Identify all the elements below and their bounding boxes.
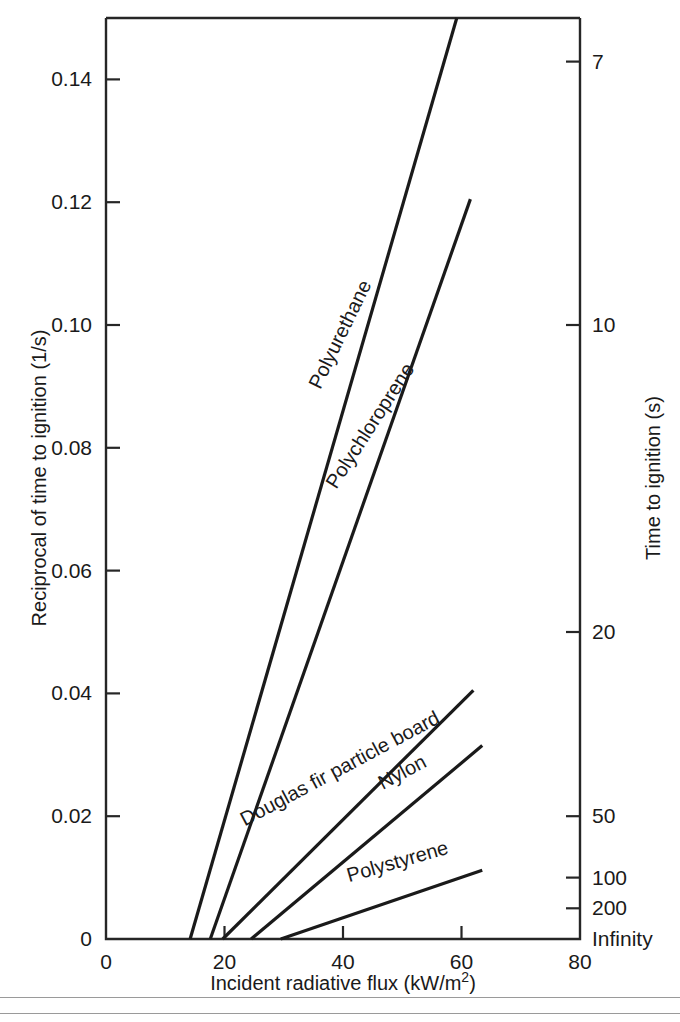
x-tick-label: 80 — [568, 950, 591, 973]
right-tick-label: 100 — [592, 866, 627, 889]
series-label: Polystyrene — [344, 836, 451, 886]
y-tick-label: 0.10 — [51, 313, 92, 336]
x-axis-title: Incident radiative flux (kW/m2) — [210, 969, 476, 994]
right-tick-label: 200 — [592, 896, 627, 919]
x-tick-label: 0 — [100, 950, 112, 973]
right-tick-label: 50 — [592, 804, 615, 827]
y-axis-ticks: 00.020.040.060.080.100.120.14 — [51, 67, 120, 950]
y-tick-label: 0.08 — [51, 436, 92, 459]
y-tick-label: 0.06 — [51, 559, 92, 582]
right-tick-label: 20 — [592, 620, 615, 643]
series-label: Polychloroprene — [321, 359, 418, 492]
y-axis-title: Reciprocal of time to ignition (1/s) — [28, 330, 50, 627]
ignition-chart: 020406080 00.020.040.060.080.100.120.14 … — [0, 0, 680, 1022]
x-axis-ticks: 020406080 — [100, 926, 592, 973]
series-line — [281, 870, 482, 939]
x-tick-label: 40 — [331, 950, 354, 973]
footer-rule-bottom — [0, 1013, 680, 1014]
series-labels: PolyurethanePolychloropreneDouglas fir p… — [236, 276, 450, 886]
y-tick-label: 0.02 — [51, 804, 92, 827]
y-tick-label: 0 — [80, 927, 92, 950]
y-tick-label: 0.04 — [51, 681, 92, 704]
right-tick-label: Infinity — [592, 927, 653, 950]
figure-container: 020406080 00.020.040.060.080.100.120.14 … — [0, 0, 680, 1022]
footer-rule-top — [0, 997, 680, 998]
right-tick-label: 10 — [592, 313, 615, 336]
right-axis-title: Time to ignition (s) — [642, 396, 664, 560]
x-tick-label: 20 — [213, 950, 236, 973]
y-tick-label: 0.14 — [51, 67, 92, 90]
right-tick-label: 7 — [592, 50, 604, 73]
y-tick-label: 0.12 — [51, 190, 92, 213]
